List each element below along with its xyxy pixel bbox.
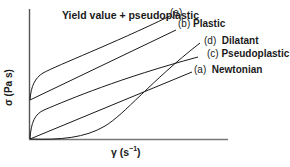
curve-b-plastic (30, 30, 176, 100)
label-e-tag: (e) (170, 7, 182, 18)
label-a-name: Newtonian (212, 64, 263, 75)
label-e: (e) (170, 8, 182, 18)
label-c-tag: (c) (207, 48, 219, 59)
label-b-tag: (b) (178, 18, 190, 29)
label-b: (b) Plastic (178, 19, 225, 29)
label-d-tag: (d) (204, 35, 216, 46)
rheology-chart (0, 0, 290, 167)
label-a: (a) Newtonian (194, 65, 262, 75)
x-axis-label-exponent: −1 (129, 145, 137, 152)
curve-c-pseudoplastic (30, 57, 198, 139)
y-axis-label: σ (Pa s) (4, 69, 14, 106)
x-axis-label-base: γ (s (111, 146, 129, 158)
x-axis-label-close: ) (137, 146, 141, 158)
curve-d-dilatant (30, 43, 200, 139)
label-d-name: Dilatant (222, 35, 259, 46)
x-axis-label: γ (s−1) (111, 145, 141, 157)
label-a-tag: (a) (194, 64, 206, 75)
label-b-name: Plastic (193, 18, 225, 29)
label-c: (c) Pseudoplastic (207, 49, 289, 59)
label-c-name: Pseudoplastic (221, 48, 289, 59)
label-d: (d) Dilatant (204, 36, 258, 46)
